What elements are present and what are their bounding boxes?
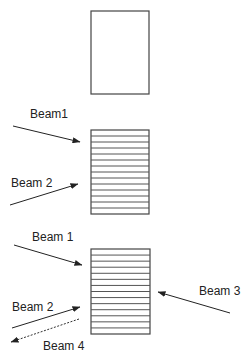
panel3-beam2-label: Beam 2 [12, 300, 54, 314]
samples-group [91, 11, 150, 334]
sample-panel-1 [91, 11, 149, 94]
panel3-beam4-label: Beam 4 [43, 339, 85, 353]
sample-panel-3 [91, 249, 150, 334]
panel3-beam1-label: Beam 1 [32, 230, 74, 244]
beam-arrow-icon [14, 245, 82, 265]
panel3-beam3-label: Beam 3 [199, 284, 241, 298]
beam-arrow-icon [13, 126, 80, 142]
diagram-canvas: Beam1 Beam 2 Beam 1 Beam 2 Beam 3 Beam 4 [0, 0, 252, 357]
panel2-beam1-label: Beam1 [30, 107, 68, 121]
sample-rectangle [91, 11, 149, 94]
panel2-beam2-label: Beam 2 [11, 176, 53, 190]
sample-panel-2 [91, 130, 149, 214]
